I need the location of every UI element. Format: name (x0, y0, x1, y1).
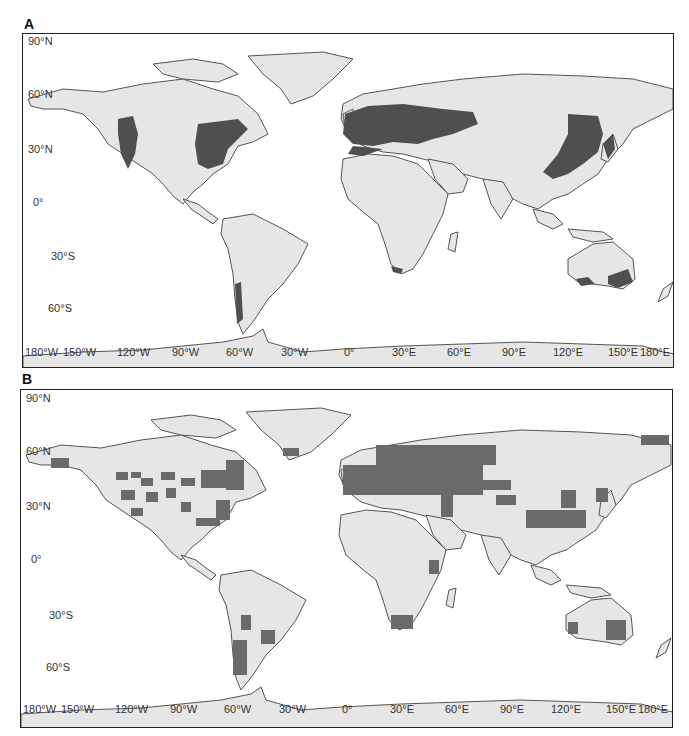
lon-label-30w-a: 30°W (281, 346, 308, 358)
panel-label-a: A (24, 16, 34, 32)
lon-label-150e-b: 150°E (606, 703, 636, 715)
lat-label-30n-b: 30°N (26, 500, 51, 512)
world-map-b (21, 390, 673, 728)
lon-label-0-b: 0° (342, 703, 353, 715)
lon-label-0-a: 0° (344, 346, 355, 358)
lon-label-150w-a: 150°W (63, 346, 96, 358)
lat-label-30s-b: 30°S (49, 609, 73, 621)
lon-label-60w-b: 60°W (224, 703, 251, 715)
lon-label-180w-a: 180°W (25, 346, 58, 358)
lat-label-0-a: 0° (33, 196, 44, 208)
lat-label-90n-a: 90°N (28, 35, 53, 47)
lon-label-180w-b: 180°W (23, 703, 56, 715)
lon-label-30e-a: 30°E (392, 346, 416, 358)
lat-label-90n-b: 90°N (26, 392, 51, 404)
lon-label-120e-a: 120°E (553, 346, 583, 358)
lon-label-90e-b: 90°E (500, 703, 524, 715)
lon-label-120w-b: 120°W (115, 703, 148, 715)
lat-label-60s-b: 60°S (46, 661, 70, 673)
map-panel-b (20, 389, 673, 728)
lon-label-120e-b: 120°E (551, 703, 581, 715)
lat-label-60n-b: 60°N (26, 445, 51, 457)
lat-label-0-b: 0° (31, 553, 42, 565)
lon-label-90e-a: 90°E (502, 346, 526, 358)
lon-label-30e-b: 30°E (390, 703, 414, 715)
lon-label-180e-a: 180°E (640, 346, 670, 358)
lon-label-150e-a: 150°E (608, 346, 638, 358)
lon-label-90w-a: 90°W (172, 346, 199, 358)
lon-label-90w-b: 90°W (170, 703, 197, 715)
lon-label-120w-a: 120°W (117, 346, 150, 358)
lon-label-60e-a: 60°E (447, 346, 471, 358)
lat-label-30s-a: 30°S (51, 250, 75, 262)
lon-label-60w-a: 60°W (226, 346, 253, 358)
lon-label-30w-b: 30°W (279, 703, 306, 715)
lat-label-60n-a: 60°N (28, 88, 53, 100)
lon-label-180e-b: 180°E (638, 703, 668, 715)
map-panel-a (22, 33, 674, 368)
lon-label-150w-b: 150°W (61, 703, 94, 715)
panel-label-b: B (22, 371, 32, 387)
lat-label-60s-a: 60°S (48, 302, 72, 314)
lon-label-60e-b: 60°E (445, 703, 469, 715)
lat-label-30n-a: 30°N (28, 143, 53, 155)
world-map-a (23, 34, 674, 368)
